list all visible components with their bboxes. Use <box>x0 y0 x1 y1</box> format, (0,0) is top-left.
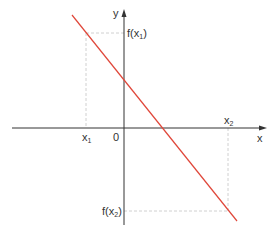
x-axis-label: x <box>257 132 263 144</box>
y-axis-arrow-icon <box>122 9 127 17</box>
function-line <box>72 15 237 221</box>
y-axis-label: y <box>113 7 119 19</box>
x-axis-arrow-icon <box>259 126 267 131</box>
fx1-label: f(x1) <box>127 27 147 40</box>
fx2-label: f(x2) <box>102 205 122 218</box>
function-graph: y x 0 x1 x2 f(x1) f(x2) <box>0 0 273 241</box>
x2-label: x2 <box>224 114 234 127</box>
origin-label: 0 <box>113 131 119 143</box>
x1-label: x1 <box>82 131 92 144</box>
